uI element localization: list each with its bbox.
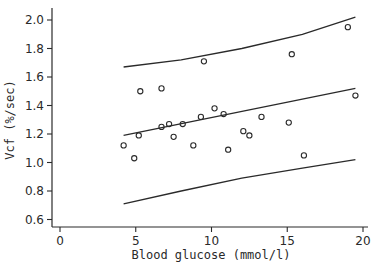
data-point bbox=[138, 89, 143, 94]
x-tick-label: 15 bbox=[280, 234, 295, 248]
upper-prediction-limit-curve bbox=[124, 17, 356, 67]
data-point bbox=[289, 52, 294, 57]
data-point bbox=[132, 156, 137, 161]
data-point bbox=[286, 120, 291, 125]
y-tick-label: 1.4 bbox=[25, 99, 44, 113]
plot-area bbox=[121, 17, 358, 204]
data-point bbox=[191, 143, 196, 148]
data-point bbox=[171, 134, 176, 139]
regression-line-curve bbox=[124, 88, 356, 135]
y-tick-label: 1.2 bbox=[25, 127, 44, 141]
y-tick-label: 0.8 bbox=[25, 184, 44, 198]
data-point bbox=[121, 143, 126, 148]
data-point bbox=[259, 114, 264, 119]
data-point bbox=[353, 93, 358, 98]
y-tick-label: 1.6 bbox=[25, 70, 44, 84]
y-tick-label: 1.0 bbox=[25, 156, 44, 170]
x-axis-title: Blood glucose (mmol/l) bbox=[132, 248, 291, 262]
data-point bbox=[212, 106, 217, 111]
data-point bbox=[159, 86, 164, 91]
data-point bbox=[301, 153, 306, 158]
data-point bbox=[241, 129, 246, 134]
scatter-chart: 0.60.81.01.21.41.61.82.005101520 Blood g… bbox=[0, 0, 376, 270]
y-tick-label: 1.8 bbox=[25, 42, 44, 56]
y-tick-label: 2.0 bbox=[25, 13, 44, 27]
x-tick-label: 20 bbox=[355, 234, 370, 248]
x-tick-label: 0 bbox=[56, 234, 64, 248]
data-point bbox=[247, 133, 252, 138]
data-point bbox=[136, 133, 141, 138]
x-tick-label: 5 bbox=[132, 234, 140, 248]
axes: 0.60.81.01.21.41.61.82.005101520 bbox=[25, 8, 371, 248]
x-tick-label: 10 bbox=[204, 234, 219, 248]
data-point bbox=[201, 59, 206, 64]
y-tick-label: 0.6 bbox=[25, 213, 44, 227]
lower-prediction-limit-curve bbox=[124, 160, 356, 204]
data-point bbox=[226, 147, 231, 152]
y-axis-title: Vcf (%/sec) bbox=[3, 80, 17, 159]
data-point bbox=[345, 25, 350, 30]
